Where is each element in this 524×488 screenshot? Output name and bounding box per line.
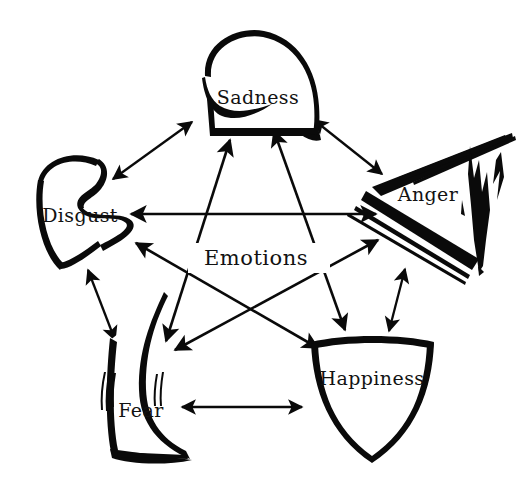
diagram-canvas: Sadness Anger Happ [0, 0, 524, 488]
sadness-label: Sadness [217, 86, 299, 108]
happiness-label: Happiness [320, 367, 425, 389]
disgust-label: Disgust [42, 204, 118, 226]
center-label-group: Emotions [188, 243, 330, 273]
center-label: Emotions [204, 246, 308, 270]
emotions-diagram: Sadness Anger Happ [0, 0, 524, 488]
fear-label: Fear [118, 399, 164, 421]
anger-label: Anger [397, 183, 459, 205]
